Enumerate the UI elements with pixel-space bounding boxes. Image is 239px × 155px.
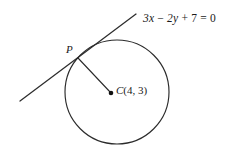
radius-segment [78,58,111,93]
geometry-figure: 3x − 2y + 7 = 0 P C(4, 3) [0,0,239,155]
equation-term-x: 3x [143,12,154,24]
equation-operator-plus: + [181,12,188,24]
equation-constant: 7 [191,12,197,24]
tangent-point-label: P [66,44,73,55]
center-point-label: C(4, 3) [116,85,147,96]
equation-right-side: 0 [210,12,216,24]
center-label-close-paren: ) [144,84,148,96]
tangent-equation-label: 3x − 2y + 7 = 0 [143,13,216,25]
equation-operator-minus: − [157,12,164,24]
center-point-dot [109,91,114,96]
equation-term-y: 2y [167,12,178,24]
center-label-comma: , [133,84,136,96]
equation-equals-sign: = [200,12,207,24]
